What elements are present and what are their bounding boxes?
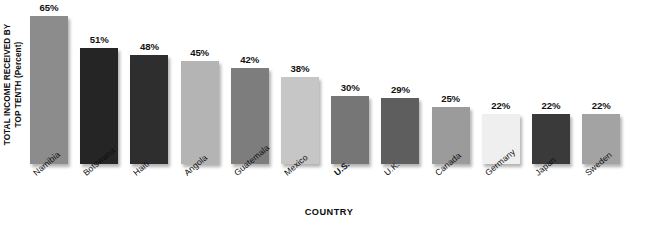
bar-value-label: 65% (21, 2, 77, 13)
x-tick-label-namibia: Namibia (30, 166, 68, 208)
bar-value-label: 51% (71, 34, 127, 45)
bar-group[interactable]: 25% (432, 0, 470, 164)
bar[interactable] (331, 96, 369, 164)
y-axis-title-line2: TOP TENTH (Percent) (14, 41, 23, 127)
x-tick-label-germany: Germany (482, 166, 520, 208)
bar-value-label: 45% (172, 47, 228, 58)
x-tick-label-japan: Japan (532, 166, 570, 208)
bar-group[interactable]: 65% (30, 0, 68, 164)
bar-value-label: 48% (121, 41, 177, 52)
bar-value-label: 22% (523, 100, 579, 111)
bar-group[interactable]: 22% (482, 0, 520, 164)
bar[interactable] (181, 61, 219, 164)
bar-group[interactable]: 29% (381, 0, 419, 164)
bar-group[interactable]: 51% (80, 0, 118, 164)
bar-group[interactable]: 45% (181, 0, 219, 164)
bar-chart: TOTAL INCOME RECEIVED BY TOP TENTH (Perc… (0, 0, 658, 234)
plot-area: 65%51%48%45%42%38%30%29%25%22%22%22% (28, 0, 658, 164)
bar-value-label: 22% (573, 100, 629, 111)
x-tick-label-canada: Canada (432, 166, 470, 208)
bar-group[interactable]: 38% (281, 0, 319, 164)
y-axis-title-line1: TOTAL INCOME RECEIVED BY (4, 23, 13, 145)
bar[interactable] (281, 77, 319, 164)
bar-value-label: 29% (372, 84, 428, 95)
x-tick-label-sweden: Sweden (582, 166, 620, 208)
x-axis-title: COUNTRY (0, 207, 658, 217)
bar-value-label: 38% (272, 63, 328, 74)
bar[interactable] (30, 16, 68, 164)
y-axis-title: TOTAL INCOME RECEIVED BY TOP TENTH (Perc… (0, 0, 28, 168)
x-tick-label-haiti: Haiti (130, 166, 168, 208)
x-axis-tick-labels: NamibiaBotswanaHaitiAngolaGuatemalaMexic… (28, 164, 658, 210)
x-tick-label-mexico: Mexico (281, 166, 319, 208)
bar-value-label: 25% (423, 93, 479, 104)
bar-value-label: 42% (222, 54, 278, 65)
bar-group[interactable]: 22% (532, 0, 570, 164)
x-tick-label-u-s: U.S. (331, 166, 369, 208)
x-tick-label-guatemala: Guatemala (231, 166, 269, 208)
x-tick-label-botswana: Botswana (80, 166, 118, 208)
x-tick-label-angola: Angola (181, 166, 219, 208)
bar-group[interactable]: 22% (582, 0, 620, 164)
x-tick-label-u-k: U.K. (381, 166, 419, 208)
bar[interactable] (130, 55, 168, 164)
bar-value-label: 22% (473, 100, 529, 111)
bar[interactable] (381, 98, 419, 164)
bar-value-label: 30% (322, 82, 378, 93)
y-axis-title-text: TOTAL INCOME RECEIVED BY TOP TENTH (Perc… (4, 23, 25, 145)
bar-group[interactable]: 42% (231, 0, 269, 164)
bar-group[interactable]: 48% (130, 0, 168, 164)
bar-group[interactable]: 30% (331, 0, 369, 164)
